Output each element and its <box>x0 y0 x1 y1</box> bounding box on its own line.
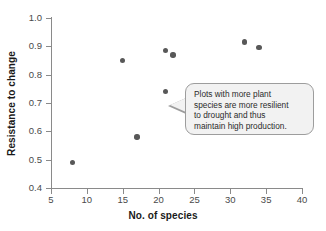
data-point <box>163 89 168 94</box>
annotation-callout-text: Plots with more plant species are more r… <box>194 89 306 132</box>
data-point <box>170 52 175 57</box>
x-axis-tick-label: 5 <box>39 195 63 205</box>
data-point <box>70 160 75 165</box>
x-axis-tick-label: 40 <box>290 195 314 205</box>
x-axis-tick-label: 35 <box>254 195 278 205</box>
annotation-callout: Plots with more plant species are more r… <box>185 83 314 135</box>
callout-pointer-fill <box>170 98 186 112</box>
data-point <box>163 48 168 53</box>
x-axis-tick-label: 30 <box>218 195 242 205</box>
x-axis-title: No. of species <box>0 210 326 221</box>
data-point <box>256 45 261 50</box>
x-axis-tick-label: 15 <box>111 195 135 205</box>
data-point <box>242 39 247 44</box>
y-axis-title: Resistance to change <box>6 51 17 156</box>
scatter-chart-figure: 0.40.50.60.70.80.91.0510152025303540 Res… <box>0 0 326 231</box>
data-point <box>120 58 125 63</box>
x-axis-tick-label: 20 <box>147 195 171 205</box>
x-axis-tick-label: 25 <box>182 195 206 205</box>
data-point <box>134 134 139 139</box>
y-axis-title-wrap: Resistance to change <box>0 0 22 206</box>
x-axis-tick-label: 10 <box>75 195 99 205</box>
